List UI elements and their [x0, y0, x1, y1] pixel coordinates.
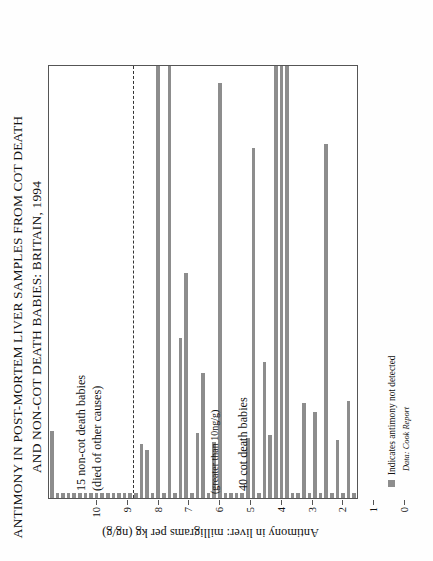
bar-row [324, 66, 328, 498]
bar-row [313, 66, 317, 498]
bar-row [184, 66, 188, 498]
group-label-non-cot-line-2: (died of other causes) [90, 386, 104, 491]
bar-row [352, 66, 356, 498]
bar-row [224, 66, 228, 498]
bar [280, 66, 284, 498]
value-axis-tickmark-1 [373, 500, 374, 505]
value-axis-tickmark-10 [96, 500, 97, 505]
bar-row [257, 66, 261, 498]
value-axis-tick-3: 3 [306, 507, 317, 537]
bar-row [252, 66, 256, 498]
bar-not-detected [61, 493, 65, 498]
figure-page: ANTIMONY IN POST-MORTEM LIVER SAMPLES FR… [0, 0, 433, 561]
value-axis-tickmark-8 [158, 500, 159, 505]
bar-not-detected [162, 493, 166, 498]
bar-not-detected [67, 493, 71, 498]
bar-row [296, 66, 300, 498]
bar [268, 435, 272, 498]
bar [263, 362, 267, 498]
bar-row [67, 66, 71, 498]
bar-not-detected [341, 493, 345, 498]
bar-row [347, 66, 351, 498]
value-axis-tick-1: 1 [368, 507, 379, 537]
bar-row [229, 66, 233, 498]
bar [145, 450, 149, 498]
bar-row [308, 66, 312, 498]
value-axis-tick-10: 10 [91, 507, 102, 537]
bar-row [173, 66, 177, 498]
value-axis-tickmark-5 [250, 500, 251, 505]
bar-row [134, 66, 138, 498]
legend-label: Indicates antimony not detected [387, 356, 397, 476]
bar-not-detected [190, 493, 194, 498]
bar-not-detected [123, 493, 127, 498]
bar-not-detected [151, 493, 155, 498]
bar [336, 440, 340, 498]
value-axis-tickmark-0 [404, 500, 405, 505]
bar-row [50, 66, 54, 498]
bar-not-detected [291, 493, 295, 498]
bar-row [145, 66, 149, 498]
bar-not-detected [56, 493, 60, 498]
bar-not-detected [128, 493, 132, 498]
group-separator [133, 66, 134, 498]
bar-not-detected [224, 493, 228, 498]
bar-not-detected [319, 493, 323, 498]
value-axis-tick-4: 4 [275, 507, 286, 537]
bar-not-detected [106, 493, 110, 498]
bar-row [151, 66, 155, 498]
bar-not-detected [352, 493, 356, 498]
bar [184, 273, 188, 498]
value-axis-tickmark-9 [127, 500, 128, 505]
source-note: Data: Cook Report [402, 407, 411, 471]
bar-row [285, 66, 289, 498]
bar-row [179, 66, 183, 498]
bar-row [201, 66, 205, 498]
bar-row [117, 66, 121, 498]
bar-row [168, 66, 172, 498]
bar-row [112, 66, 116, 498]
bar-not-detected [257, 493, 261, 498]
bar [274, 66, 278, 498]
value-axis-tickmark-2 [342, 500, 343, 505]
bar-row [162, 66, 166, 498]
value-axis-tickmark-3 [312, 500, 313, 505]
bar-row [61, 66, 65, 498]
bar-row [123, 66, 127, 498]
bar-row [336, 66, 340, 498]
value-axis-tick-8: 8 [152, 507, 163, 537]
bar [50, 431, 54, 498]
bar-not-detected [173, 493, 177, 498]
bar [313, 412, 317, 498]
bar-row [341, 66, 345, 498]
bar-row [274, 66, 278, 498]
bar-row [190, 66, 194, 498]
value-axis-tick-6: 6 [214, 507, 225, 537]
value-axis-tickmark-7 [188, 500, 189, 505]
bar [179, 338, 183, 498]
bar-not-detected [134, 493, 138, 498]
bar-row [263, 66, 267, 498]
bar [168, 66, 172, 498]
chart-title: ANTIMONY IN POST-MORTEM LIVER SAMPLES FR… [8, 107, 46, 547]
bar-not-detected [330, 493, 334, 498]
bar-row [140, 66, 144, 498]
bar [201, 373, 205, 498]
value-axis-tickmark-4 [281, 500, 282, 505]
bar-row [291, 66, 295, 498]
bar-not-detected [308, 493, 312, 498]
bar-row [330, 66, 334, 498]
group-label-cot-death: 40 cot death babies [236, 59, 252, 499]
legend-swatch-icon [388, 480, 395, 487]
bar-not-detected [229, 493, 233, 498]
bar-row [268, 66, 272, 498]
value-axis-tick-0: 0 [399, 507, 410, 537]
bar-not-detected [117, 493, 121, 498]
value-axis: Antimony in liver: milligrams per kg (ng… [48, 499, 358, 561]
bar-not-detected [296, 493, 300, 498]
value-axis-tick-5: 5 [245, 507, 256, 537]
bar-row [128, 66, 132, 498]
rotated-figure-stage: ANTIMONY IN POST-MORTEM LIVER SAMPLES FR… [0, 0, 433, 561]
bar-row [156, 66, 160, 498]
group-label-non-cot-death: 15 non-cot death babies (died of other c… [74, 59, 106, 499]
